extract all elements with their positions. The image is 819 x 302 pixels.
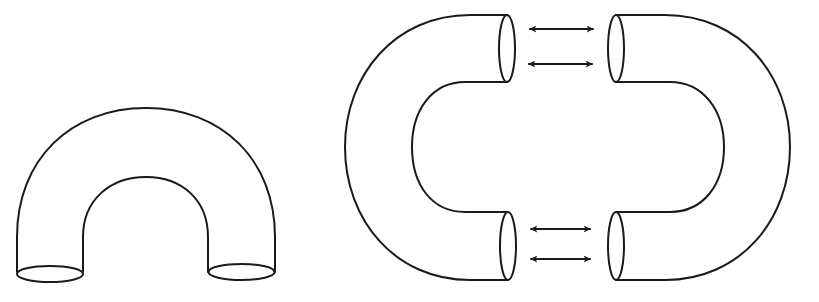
left-half-inner-wall bbox=[412, 82, 507, 212]
left-half-top-opening bbox=[499, 15, 515, 82]
u-tube-outer-wall bbox=[17, 108, 275, 272]
u-tube-inner-wall bbox=[83, 177, 208, 272]
right-half-bottom-opening bbox=[608, 212, 624, 280]
u-tube-right-opening bbox=[209, 264, 275, 280]
diagram-canvas bbox=[0, 0, 819, 302]
right-half-inner-wall bbox=[616, 82, 724, 212]
left-half-tube bbox=[345, 15, 516, 280]
u-tube-left-opening bbox=[17, 266, 83, 282]
right-half-tube bbox=[608, 15, 790, 280]
diagram-svg bbox=[0, 0, 819, 302]
connection-arrows bbox=[529, 29, 593, 259]
left-half-outer-wall bbox=[345, 15, 507, 280]
left-half-bottom-opening bbox=[500, 212, 516, 280]
right-half-top-opening bbox=[608, 15, 624, 82]
right-half-outer-wall bbox=[616, 15, 790, 280]
u-tube bbox=[17, 108, 275, 282]
